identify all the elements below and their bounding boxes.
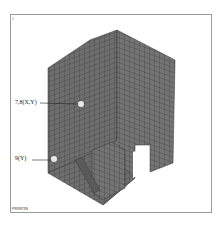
node-point-7-8 — [78, 101, 84, 107]
annotation-node-7-8: 7,8(X,Y) — [15, 99, 37, 105]
fe-mesh-model — [0, 0, 223, 227]
annotation-node-9: 9(Y) — [15, 155, 26, 161]
door-opening — [133, 147, 147, 178]
node-point-9 — [51, 156, 57, 162]
